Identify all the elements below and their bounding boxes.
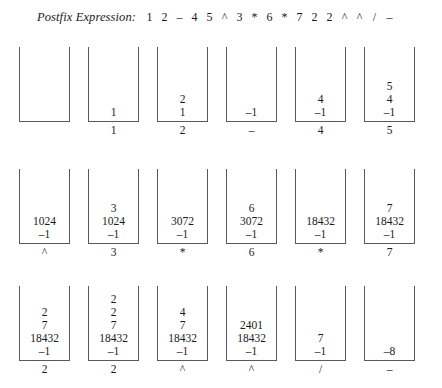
stack-container: 21: [157, 47, 208, 122]
stack-item: 4: [318, 93, 324, 106]
stack-item: 18432: [168, 332, 197, 345]
stack-container: 18432–1: [295, 169, 346, 244]
consumed-token-label: 2: [88, 363, 139, 376]
stack-items: 1: [89, 106, 138, 119]
stack-container: 2718432–1: [19, 286, 70, 361]
stack-snapshot: 212: [157, 47, 208, 139]
consumed-token-label: 5: [364, 124, 415, 137]
consumed-token-label: –: [364, 363, 415, 376]
postfix-expression-label: Postfix Expression:: [37, 10, 136, 25]
stack-item: –1: [315, 345, 327, 358]
consumed-token-label: ^: [226, 363, 277, 376]
stack-snapshot: –1–: [226, 47, 277, 139]
stack-item: –1: [177, 228, 189, 241]
stack-item: –1: [384, 228, 396, 241]
stack-item: 7: [318, 332, 324, 345]
stack-item: 2: [111, 293, 117, 306]
stack-trace-row: 2718432–1222718432–124718432–1^240118432…: [0, 286, 442, 388]
stack-items: 7–1: [296, 332, 345, 358]
stack-item: 3072: [240, 215, 263, 228]
stack-item: 1: [111, 106, 117, 119]
stack-items: 63072–1: [227, 202, 276, 241]
consumed-token-label: –: [226, 124, 277, 137]
stack-item: 18432: [237, 332, 266, 345]
stack-items: 240118432–1: [227, 319, 276, 358]
stack-items: 3072–1: [158, 215, 207, 241]
stack-container: 1024–1: [19, 169, 70, 244]
stack-snapshot: 2718432–12: [19, 286, 70, 378]
stack-items: 31024–1: [89, 202, 138, 241]
stack-container: 4–1: [295, 47, 346, 122]
stack-item: –1: [315, 228, 327, 241]
stack-snapshot: 718432–17: [364, 169, 415, 261]
expression-token: 5: [202, 10, 217, 25]
stack-snapshot: 11: [88, 47, 139, 139]
stack-item: 3072: [171, 215, 194, 228]
consumed-token-label: 2: [19, 363, 70, 376]
stack-snapshot: 54–15: [364, 47, 415, 139]
expression-token: –: [382, 10, 397, 25]
stack-items: –8: [365, 345, 414, 358]
stack-snapshot: 63072–16: [226, 169, 277, 261]
stack-container: 63072–1: [226, 169, 277, 244]
stack-container: 31024–1: [88, 169, 139, 244]
stack-item: –1: [246, 106, 258, 119]
expression-token: 3: [232, 10, 247, 25]
stack-items: 21: [158, 93, 207, 119]
consumed-token-label: 1: [88, 124, 139, 137]
consumed-token-label: *: [157, 246, 208, 259]
stack-item: –1: [108, 228, 120, 241]
stack-item: 18432: [99, 332, 128, 345]
stack-snapshot: [19, 47, 70, 139]
stack-item: 1024: [33, 215, 56, 228]
stack-items: 718432–1: [365, 202, 414, 241]
stack-item: 5: [387, 80, 393, 93]
stack-item: 2: [180, 93, 186, 106]
consumed-token-label: ^: [157, 363, 208, 376]
consumed-token-label: ^: [19, 246, 70, 259]
expression-token: 2: [157, 10, 172, 25]
stack-items: 2718432–1: [20, 306, 69, 358]
stack-snapshot: 4–14: [295, 47, 346, 139]
consumed-token-label: 6: [226, 246, 277, 259]
stack-items: 18432–1: [296, 215, 345, 241]
stack-item: 2: [42, 306, 48, 319]
stack-item: 3: [111, 202, 117, 215]
stack-container: 7–1: [295, 286, 346, 361]
stack-item: 7: [180, 319, 186, 332]
expression-token: *: [277, 10, 292, 25]
stack-snapshot: 4718432–1^: [157, 286, 208, 378]
expression-token: 2: [322, 10, 337, 25]
stack-trace-row: 11212–1–4–1454–15: [0, 47, 442, 159]
stack-container: –1: [226, 47, 277, 122]
expression-token: ^: [352, 10, 367, 25]
consumed-token-label: 7: [364, 246, 415, 259]
stack-snapshot: 22718432–12: [88, 286, 139, 378]
stack-item: 18432: [306, 215, 335, 228]
stack-container: 3072–1: [157, 169, 208, 244]
stack-item: –1: [384, 106, 396, 119]
expression-token: ^: [337, 10, 352, 25]
stack-item: 18432: [375, 215, 404, 228]
postfix-expression-header: Postfix Expression: 12–45^3*6*722^^/–: [0, 10, 442, 30]
stack-items: 54–1: [365, 80, 414, 119]
stack-snapshot: 18432–1*: [295, 169, 346, 261]
stack-container: 4718432–1: [157, 286, 208, 361]
stack-items: 22718432–1: [89, 293, 138, 358]
consumed-token-label: /: [295, 363, 346, 376]
consumed-token-label: 2: [157, 124, 208, 137]
stack-items: 4718432–1: [158, 306, 207, 358]
stack-snapshot: 1024–1^: [19, 169, 70, 261]
stack-items: 4–1: [296, 93, 345, 119]
stack-item: 4: [180, 306, 186, 319]
consumed-token-label: 4: [295, 124, 346, 137]
stack-items: –1: [227, 106, 276, 119]
consumed-token-label: *: [295, 246, 346, 259]
stack-item: 1: [180, 106, 186, 119]
stack-snapshot: –8–: [364, 286, 415, 378]
stack-snapshot: 240118432–1^: [226, 286, 277, 378]
stack-item: –1: [108, 345, 120, 358]
stack-snapshot: 31024–13: [88, 169, 139, 261]
stack-item: –1: [39, 228, 51, 241]
stack-snapshot: 3072–1*: [157, 169, 208, 261]
